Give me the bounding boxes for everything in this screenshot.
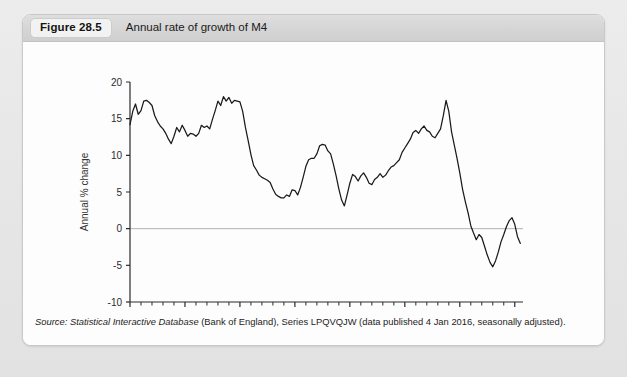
page-background: Figure 28.5 Annual rate of growth of M4 … [0,0,627,377]
figure-body: -10-505101520 19801985199019952000200520… [23,42,604,345]
line-chart-svg: -10-505101520 19801985199019952000200520… [23,42,605,310]
y-axis-title: Annual % change [79,152,90,231]
figure-title: Annual rate of growth of M4 [126,22,267,34]
y-tick-label: -10 [108,297,123,308]
chart-plot: -10-505101520 19801985199019952000200520… [23,42,605,310]
figure-header: Figure 28.5 Annual rate of growth of M4 [23,15,604,42]
y-tick-label: 0 [116,223,122,234]
y-tick-label: 15 [111,113,123,124]
y-tick-label: 10 [111,150,123,161]
source-details: (Bank of England), Series LPQVQJW (data … [199,316,566,327]
y-tick-label: -5 [113,260,122,271]
source-label: Source: [35,316,70,327]
figure-source-note: Source: Statistical Interactive Database… [35,316,592,328]
figure-container: Figure 28.5 Annual rate of growth of M4 … [22,14,605,346]
y-tick-label: 20 [111,77,123,88]
figure-number-badge: Figure 28.5 [30,18,112,39]
source-database-name: Statistical Interactive Database [70,316,199,327]
y-tick-label: 5 [116,187,122,198]
